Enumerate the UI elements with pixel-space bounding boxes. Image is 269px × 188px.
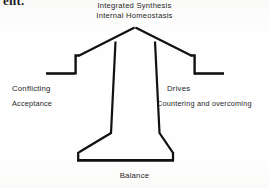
anvil-arrow-diagram [0, 0, 269, 188]
label-drives: Drives [167, 85, 190, 93]
label-acceptance: Acceptance [12, 100, 52, 107]
label-integrated-synthesis: Integrated Synthesis [0, 2, 269, 10]
right-diagonal-path [135, 27, 191, 55]
label-internal-homeostasis: Internal Homeostasis [0, 12, 269, 20]
stem-right-edge-path [155, 42, 173, 153]
right-shoulder-step-path [191, 56, 195, 75]
label-countering-and-overcoming: Countering and overcoming [157, 100, 252, 107]
left-diagonal-path [79, 27, 135, 55]
label-balance: Balance [0, 172, 269, 180]
stem-left-edge-path [79, 42, 116, 153]
left-shoulder-step-path [76, 56, 80, 75]
label-conflicting: Conflicting [12, 85, 51, 93]
figure-page: ent. Integrated Synthesis Internal Homeo… [0, 0, 269, 188]
